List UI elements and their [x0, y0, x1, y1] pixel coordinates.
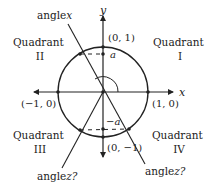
- point-label-right: (1, 0): [152, 98, 179, 109]
- quadrant-3-num: III: [34, 143, 46, 155]
- origin-dot: [101, 90, 105, 94]
- point-label-bottom: (0, −1): [107, 142, 142, 153]
- quadrant-3-word: Quadrant: [13, 129, 64, 141]
- point-dot: [127, 127, 131, 131]
- angle-z-left-var: z?: [65, 170, 78, 182]
- quadrant-1-label: Quadrant I: [153, 36, 207, 62]
- y-axis-label: y: [99, 4, 107, 17]
- angle-z-left-label: anglez?: [37, 170, 78, 182]
- quadrant-4-label: Quadrant IV: [152, 129, 206, 155]
- angle-z-right-var: z?: [173, 165, 186, 177]
- quadrant-4-num: IV: [173, 143, 185, 155]
- quadrant-2-label: Quadrant II: [13, 36, 67, 62]
- point-label-top: (0, 1): [108, 32, 135, 43]
- point-dot: [56, 90, 60, 94]
- quadrant-3-label: Quadrant III: [13, 129, 67, 155]
- angle-z-right-label: anglez?: [145, 165, 186, 177]
- angle-z-left-word: angle: [37, 170, 66, 182]
- point-dot: [78, 128, 82, 132]
- point-dot: [78, 52, 82, 56]
- angle-z-right-word: angle: [145, 165, 174, 177]
- point-dot: [146, 90, 150, 94]
- point-dot: [101, 52, 105, 56]
- unit-circle-diagram: x y (0, 1) (0, −1) (−1, 0) (1, 0) a −a Q…: [0, 0, 215, 189]
- point-dot: [101, 127, 105, 131]
- diagram-canvas: x y (0, 1) (0, −1) (−1, 0) (1, 0) a −a Q…: [0, 0, 215, 189]
- quadrant-2-num: II: [36, 50, 44, 62]
- height-label-a: a: [110, 49, 116, 60]
- point-dot: [101, 135, 105, 139]
- point-dot: [101, 45, 105, 49]
- x-axis-label: x: [179, 86, 186, 99]
- quadrant-4-word: Quadrant: [152, 129, 203, 141]
- quadrant-1-num: I: [178, 50, 182, 62]
- point-label-left: (−1, 0): [21, 98, 56, 109]
- height-label-neg-a: −a: [106, 116, 120, 127]
- quadrant-1-word: Quadrant: [153, 36, 204, 48]
- angle-x-word: angle: [37, 9, 66, 21]
- angle-x-label: anglex: [37, 9, 72, 21]
- quadrant-2-word: Quadrant: [13, 36, 64, 48]
- angle-x-var: x: [66, 9, 72, 21]
